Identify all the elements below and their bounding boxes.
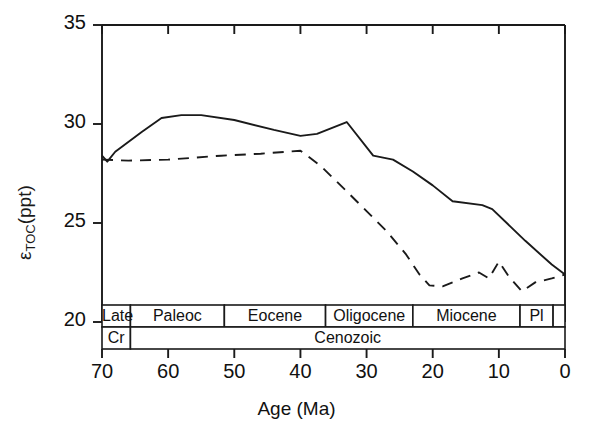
epoch-cell — [553, 305, 565, 327]
x-tick-label-50: 50 — [214, 360, 254, 383]
x-tick-label-40: 40 — [280, 360, 320, 383]
chart-figure: 20253035706050403020100LatePaleocEoceneO… — [0, 0, 593, 436]
x-tick-label-60: 60 — [148, 360, 188, 383]
x-tick-label-10: 10 — [479, 360, 519, 383]
y-tick-label-20: 20 — [30, 308, 86, 331]
series-dashed-curve — [102, 151, 565, 292]
x-tick-label-20: 20 — [413, 360, 453, 383]
x-tick-label-70: 70 — [82, 360, 122, 383]
epoch-label: Eocene — [224, 307, 325, 325]
x-tick-label-0: 0 — [545, 360, 585, 383]
epoch-label: Pl — [520, 307, 553, 325]
y-tick-label-25: 25 — [30, 209, 86, 232]
x-axis-title: Age (Ma) — [0, 398, 593, 420]
y-axis-title-epsilon: ε — [14, 252, 35, 260]
epoch-label: Oligocene — [326, 307, 413, 325]
epoch-label: Paleoc — [130, 307, 224, 325]
epoch-label: Miocene — [413, 307, 520, 325]
y-axis-title: εTOC(ppt) — [14, 185, 36, 260]
era-label: Cenozoic — [130, 329, 565, 347]
y-tick-label-35: 35 — [30, 11, 86, 34]
y-axis-title-unit: (ppt) — [14, 185, 35, 224]
y-axis-title-subscript: TOC — [23, 224, 38, 251]
series-solid-curve — [102, 115, 565, 274]
y-tick-label-30: 30 — [30, 110, 86, 133]
era-label: Cr — [102, 329, 130, 347]
epoch-label: Late — [102, 307, 130, 325]
x-tick-label-30: 30 — [347, 360, 387, 383]
